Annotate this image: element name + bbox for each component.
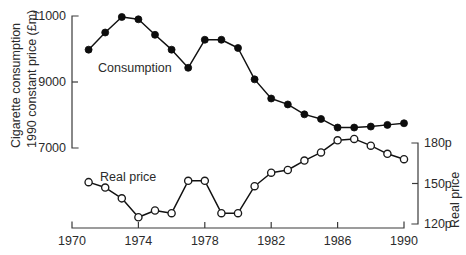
consumption-data-point — [251, 76, 258, 83]
x-axis-tick-label-4: 1986 — [324, 234, 352, 248]
real-price-data-point — [284, 166, 291, 173]
real-price-data-point — [334, 137, 341, 144]
consumption-data-point — [401, 120, 408, 127]
x-axis-tick-label-1: 1974 — [124, 234, 152, 248]
consumption-data-point — [218, 36, 225, 43]
x-axis-line — [72, 222, 404, 228]
consumption-data-point — [118, 13, 125, 20]
consumption-data-point — [168, 46, 175, 53]
left-axis-tick-label-2: 7000 — [38, 141, 66, 155]
real-price-data-point — [185, 177, 192, 184]
real-price-data-point — [400, 156, 407, 163]
consumption-data-point — [367, 123, 374, 130]
real-price-data-point — [218, 210, 225, 217]
x-axis-tick-label-0: 1970 — [58, 234, 86, 248]
x-axis-tick-label-3: 1982 — [257, 234, 285, 248]
real-price-data-point — [135, 214, 142, 221]
consumption-data-point — [135, 16, 142, 23]
consumption-data-point — [85, 46, 92, 53]
consumption-data-point — [268, 95, 275, 102]
x-axis-tick-label-2: 1978 — [191, 234, 219, 248]
real-price-data-point — [301, 157, 308, 164]
real-price-data-point — [367, 142, 374, 149]
real-price-data-point — [234, 210, 241, 217]
consumption-data-point — [334, 124, 341, 131]
real-price-data-point — [118, 195, 125, 202]
left-axis-title-line2: 1990 constant price (£m) — [25, 10, 39, 148]
x-axis-ticks — [138, 222, 337, 228]
right-axis: 180p 150p 120p Real price — [412, 136, 462, 231]
consumption-series-label: Consumption — [98, 61, 172, 75]
consumption-data-point — [351, 124, 358, 131]
consumption-data-point — [284, 101, 291, 108]
consumption-data-point — [318, 115, 325, 122]
consumption-data-point — [185, 64, 192, 71]
real-price-data-point — [251, 183, 258, 190]
consumption-data-point — [235, 45, 242, 52]
series-layer — [85, 13, 408, 220]
real-price-data-point — [201, 177, 208, 184]
x-axis-tick-label-5: 1990 — [390, 234, 418, 248]
real-price-series-label: Real price — [100, 170, 156, 184]
consumption-data-point — [301, 111, 308, 118]
real-price-data-point — [102, 184, 109, 191]
x-axis: 1970 1974 1978 1982 1986 1990 — [58, 222, 418, 248]
real-price-data-point — [317, 149, 324, 156]
real-price-data-point — [351, 135, 358, 142]
real-price-data-point — [85, 179, 92, 186]
left-axis: 11000 9000 7000 Cigarette consumption 19… — [9, 9, 78, 155]
left-axis-tick-label-1: 9000 — [38, 75, 66, 89]
consumption-data-point — [102, 29, 109, 36]
cigarette-consumption-price-chart: 11000 9000 7000 Cigarette consumption 19… — [0, 0, 466, 255]
real-price-data-point — [268, 169, 275, 176]
left-axis-title-line1: Cigarette consumption — [9, 23, 23, 148]
chart-canvas: 11000 9000 7000 Cigarette consumption 19… — [0, 0, 466, 255]
consumption-data-point — [201, 36, 208, 43]
real-price-data-point — [168, 210, 175, 217]
right-axis-tick-label-0: 180p — [424, 136, 452, 150]
right-axis-title: Real price — [448, 172, 462, 228]
consumption-data-point — [152, 31, 159, 38]
consumption-data-point — [384, 121, 391, 128]
real-price-data-point — [384, 150, 391, 157]
real-price-data-point — [151, 207, 158, 214]
